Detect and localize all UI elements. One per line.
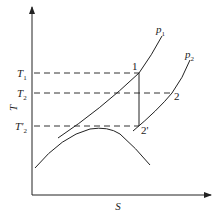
y-axis-label: T <box>7 104 19 111</box>
p1-label: p1 <box>155 23 166 38</box>
saturation-dome-curve <box>35 128 150 168</box>
ts-diagram: T S T1 T2 T'2 p1 p2 1 2 2' <box>0 0 214 216</box>
point-2-label: 2 <box>174 90 180 102</box>
x-axis-label: S <box>115 200 121 212</box>
t1-label: T1 <box>17 67 27 82</box>
t2prime-label: T'2 <box>15 120 27 135</box>
point-2prime-label: 2' <box>141 124 149 136</box>
t2-label: T2 <box>17 87 27 102</box>
isobar-p2-curve <box>133 60 190 131</box>
isobar-p1-curve <box>58 36 162 138</box>
point-1-label: 1 <box>132 60 138 72</box>
